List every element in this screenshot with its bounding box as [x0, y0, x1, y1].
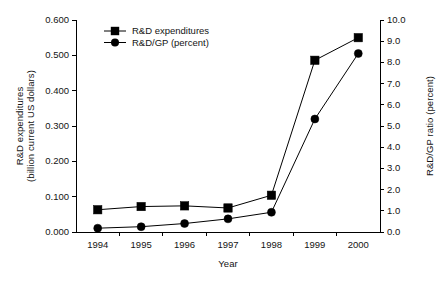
y-tick-label-right: 0.0 [387, 226, 427, 237]
y-tick-label-right: 7.0 [387, 78, 427, 89]
y-tick-label-left: 0.100 [29, 191, 69, 202]
x-tick-label: 1996 [163, 239, 207, 250]
data-point-marker [224, 215, 232, 223]
x-tick-label: 1997 [206, 239, 250, 250]
data-point-marker [137, 202, 145, 210]
x-tick-label: 1995 [119, 239, 163, 250]
data-point-marker [94, 206, 102, 214]
y-tick-label-right: 10.0 [387, 14, 427, 25]
data-point-marker [311, 56, 319, 64]
x-tick-label: 1998 [249, 239, 293, 250]
legend-marker-square [111, 27, 119, 35]
chart-figure: R&D expenditures (billion current US dol… [0, 0, 445, 281]
legend-marker-circle [111, 39, 119, 47]
y-tick-label-right: 3.0 [387, 162, 427, 173]
y-tick-label-left: 0.000 [29, 226, 69, 237]
x-tick-label: 1994 [76, 239, 120, 250]
data-point-marker [180, 202, 188, 210]
legend-label: R&D expenditures [132, 25, 209, 36]
y-tick-label-right: 4.0 [387, 141, 427, 152]
y-tick-label-right: 1.0 [387, 205, 427, 216]
data-point-marker [311, 115, 319, 123]
y-tick-label-right: 9.0 [387, 35, 427, 46]
data-point-marker [267, 191, 275, 199]
data-point-marker [224, 204, 232, 212]
data-point-marker [267, 208, 275, 216]
data-point-marker [94, 224, 102, 232]
y-tick-label-left: 0.300 [29, 120, 69, 131]
data-point-marker [181, 220, 189, 228]
y-tick-label-left: 0.500 [29, 49, 69, 60]
data-point-marker [354, 33, 362, 41]
y-tick-label-right: 2.0 [387, 184, 427, 195]
y-tick-label-left: 0.400 [29, 85, 69, 96]
y-tick-label-right: 6.0 [387, 99, 427, 110]
data-point-marker [137, 223, 145, 231]
x-tick-label: 2000 [336, 239, 380, 250]
data-series [94, 33, 363, 232]
y-tick-label-left: 0.600 [29, 14, 69, 25]
data-point-marker [354, 49, 362, 57]
y-tick-label-left: 0.200 [29, 155, 69, 166]
axes [76, 20, 380, 232]
y-tick-label-right: 8.0 [387, 56, 427, 67]
legend-markers [104, 27, 126, 47]
x-tick-label: 1999 [293, 239, 337, 250]
series-line-1 [98, 54, 359, 229]
legend-label: R&D/GP (percent) [132, 37, 209, 48]
y-tick-label-right: 5.0 [387, 120, 427, 131]
